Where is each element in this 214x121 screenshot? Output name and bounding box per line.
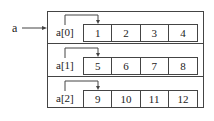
cell: 10 [112,91,140,107]
row-label: a[1] [56,59,74,71]
cell: 5 [84,58,112,74]
cell: 2 [112,25,140,41]
cell: 11 [141,91,169,107]
cell: 12 [169,91,197,107]
cell: 3 [141,25,169,41]
cell: 4 [169,25,197,41]
pointer-label: a [12,21,17,36]
cell: 6 [112,58,140,74]
cell: 1 [84,25,112,41]
row-divider [47,43,204,44]
cell: 9 [84,91,112,107]
cell: 7 [141,58,169,74]
row-cells: 5 6 7 8 [83,57,198,75]
row-cells: 9 10 11 12 [83,90,198,108]
row-divider [47,76,204,77]
row-label: a[0] [56,26,74,38]
row-label: a[2] [56,92,74,104]
cell: 8 [169,58,197,74]
row-cells: 1 2 3 4 [83,24,198,42]
